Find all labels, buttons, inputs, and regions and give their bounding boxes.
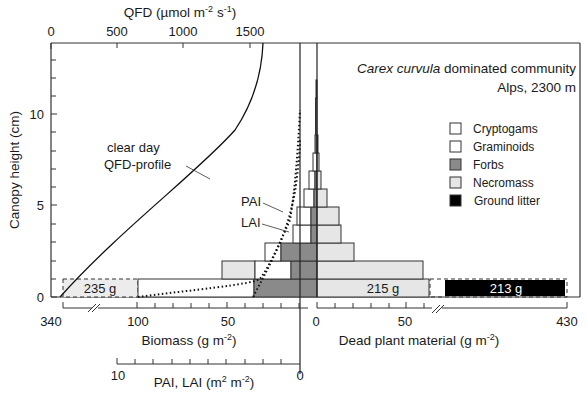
dead-tick-0: 0: [312, 314, 319, 329]
y-axis-label: Canopy height (cm): [7, 111, 22, 229]
dead-material-axis-label: Dead plant material (g m-2): [339, 332, 499, 348]
legend-label-cryptogams: Cryptogams: [473, 122, 538, 136]
chart-figure: 0 500 1000 1500 QFD (µmol m-2 s-1) 0 5: [0, 0, 587, 399]
y-tick-5: 5: [37, 198, 44, 213]
pai-label: PAI: [241, 194, 261, 209]
qfd-label-leader: [186, 166, 210, 179]
bars-layer-6: [309, 171, 321, 189]
legend: [450, 123, 461, 206]
qfd-axis: 0 500 1000 1500 QFD (µmol m-2 s-1): [47, 4, 580, 49]
lai-tick-10: 10: [111, 368, 125, 383]
qfd-tick-500: 500: [106, 24, 128, 39]
legend-label-necromass: Necromass: [473, 176, 534, 190]
dead-tick-430: 430: [556, 314, 578, 329]
legend-swatch-cryptogams: [450, 123, 461, 134]
legend-label-graminoids: Graminoids: [473, 140, 534, 154]
dead-material-axis: [317, 302, 567, 313]
qfd-axis-label: QFD (µmol m-2 s-1): [124, 4, 236, 20]
qfd-curve-label-1: clear day: [107, 140, 160, 155]
biomass-tick-50: 50: [221, 314, 235, 329]
chart-title: Carex curvula dominated community: [357, 61, 576, 76]
biomass-tick-340: 340: [40, 314, 62, 329]
qfd-curve-label-2: QFD-profile: [104, 157, 171, 172]
biomass-axis: [63, 302, 308, 312]
qfd-tick-1500: 1500: [236, 24, 265, 39]
bars-layer-1: [222, 261, 423, 279]
bars-layer-4: [297, 207, 339, 225]
litter-value-label: 213 g: [490, 281, 523, 296]
legend-swatch-necromass: [450, 177, 461, 188]
y-axis: 0 5 10 Canopy height (cm): [7, 43, 57, 305]
legend-label-forbs: Forbs: [473, 158, 504, 172]
lai-label: LAI: [241, 215, 261, 230]
pai-label-leader: [263, 203, 283, 212]
cryptogams-value-label: 235 g: [84, 281, 117, 296]
legend-label-ground-litter: Ground litter: [474, 194, 540, 208]
qfd-tick-0: 0: [47, 24, 54, 39]
pai-lai-axis-label: PAI, LAI (m2 m-2): [154, 374, 255, 390]
biomass-tick-100: 100: [127, 314, 149, 329]
necromass-value-label: 215 g: [367, 281, 400, 296]
legend-swatch-ground-litter: [450, 195, 461, 206]
y-tick-10: 10: [30, 107, 44, 122]
chart-subtitle: Alps, 2300 m: [497, 80, 576, 95]
lai-tick-0: 0: [296, 368, 303, 383]
pai-lai-axis: [117, 358, 300, 364]
legend-swatch-graminoids: [450, 141, 461, 152]
biomass-axis-label: Biomass (g m-2): [141, 332, 236, 348]
dead-tick-50: 50: [398, 314, 412, 329]
bars-layer-5: [304, 189, 327, 207]
y-tick-0: 0: [37, 290, 44, 305]
legend-swatch-forbs: [450, 159, 461, 170]
qfd-tick-1000: 1000: [169, 24, 198, 39]
